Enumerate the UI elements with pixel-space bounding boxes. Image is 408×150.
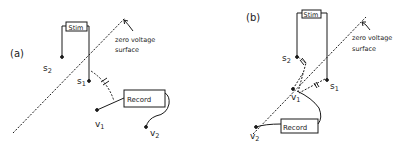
coupling-s1 [299, 79, 325, 93]
s1-electrode-dot [326, 79, 329, 82]
v1-electrode-dot [292, 88, 295, 91]
s1-label-a: s1 [77, 76, 86, 88]
stim-label-a: Stim [69, 24, 84, 32]
surface-label-b-2: surface [352, 45, 376, 53]
zero-voltage-surface-line [13, 18, 125, 133]
surface-arrow-icon [362, 22, 370, 30]
stim-wire-s2 [297, 13, 302, 57]
panel-b-label: (b) [246, 12, 260, 23]
v2-electrode-dot [145, 126, 148, 129]
s1-label-b: s1 [330, 81, 339, 93]
record-wire-v1 [97, 98, 124, 110]
stim-wire-s2 [62, 26, 66, 57]
record-label-a: Record [127, 96, 151, 104]
s2-electrode-dot [61, 56, 64, 59]
coupling-arc [91, 71, 114, 101]
v2-electrode-dot [255, 126, 258, 129]
panel-b [253, 10, 370, 134]
surface-arrow-icon [124, 20, 133, 31]
capacitor-icon [101, 78, 109, 85]
record-label-b: Record [283, 124, 307, 132]
s1-electrode-dot [88, 80, 91, 83]
v2-label-a: v2 [150, 128, 159, 140]
v2-label-b: v2 [250, 131, 259, 143]
stim-wire-s1 [321, 13, 327, 80]
panel-a-label: (a) [10, 48, 24, 59]
surface-label-a-2: surface [115, 46, 139, 54]
stim-label-b: Stim [304, 11, 319, 19]
surface-label-a-1: zero voltage [115, 36, 155, 44]
surface-label-b-1: zero voltage [352, 34, 392, 42]
v1-label-b: v1 [291, 92, 300, 104]
diagram-canvas: (a) Stim Record zero voltage surface s2 … [0, 0, 408, 150]
v1-electrode-dot [96, 109, 99, 112]
v1-label-a: v1 [95, 119, 104, 131]
record-wire-v2 [256, 124, 281, 127]
s2-label-b: s2 [282, 53, 291, 65]
stim-wire-s1 [87, 26, 89, 81]
s2-label-a: s2 [43, 63, 52, 75]
s2-electrode-dot [296, 56, 299, 59]
zero-voltage-surface-line [253, 17, 366, 134]
